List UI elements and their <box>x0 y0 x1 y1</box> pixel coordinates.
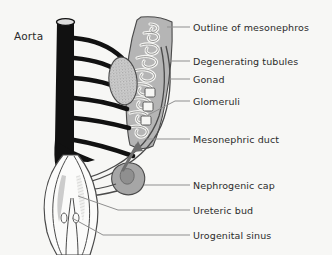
label-urogenital-sinus: Urogenital sinus <box>193 231 271 241</box>
label-degenerating-tubules: Degenerating tubules <box>193 57 298 67</box>
label-outline-of-mesonephros: Outline of mesonephros <box>193 23 309 33</box>
label-mesonephric-duct: Mesonephric duct <box>193 135 279 145</box>
diagram-canvas: Aorta Outline of mesonephros Degeneratin… <box>0 0 332 255</box>
aorta-lumen <box>57 19 75 26</box>
label-gonad: Gonad <box>193 75 225 85</box>
aorta-label: Aorta <box>14 30 43 42</box>
nephrogenic-cap <box>112 163 145 195</box>
embryology-diagram <box>0 0 332 255</box>
sinus-lumen-left <box>61 213 67 223</box>
label-glomeruli: Glomeruli <box>193 97 240 107</box>
label-nephrogenic-cap: Nephrogenic cap <box>193 181 275 191</box>
label-ureteric-bud: Ureteric bud <box>193 206 253 216</box>
